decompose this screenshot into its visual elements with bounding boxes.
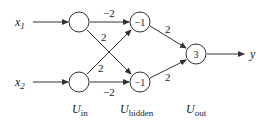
weight-h1-out: 2	[165, 23, 171, 35]
weight-h2-out: 2	[165, 71, 171, 83]
node-input-1	[69, 12, 89, 32]
layer-label-in: Uin	[72, 102, 88, 118]
input-label-x1: x1	[14, 15, 25, 31]
weight-in2-h1: 2	[98, 62, 104, 74]
node-hidden-1-value: −1	[135, 17, 146, 28]
neural-network-diagram: x1 x2 y −2 2 2 −2 2 2 −1 −1 3 Uin Uhidde…	[0, 0, 270, 123]
node-input-2	[69, 72, 89, 92]
input-label-x2: x2	[14, 75, 25, 91]
weight-in2-h2: −2	[103, 86, 115, 98]
node-output-value: 3	[194, 49, 199, 60]
weight-in1-h1: −2	[103, 7, 115, 19]
node-hidden-2-value: −1	[135, 77, 146, 88]
layer-label-out: Uout	[186, 102, 207, 118]
output-label-y: y	[249, 47, 256, 61]
weight-in1-h2: 2	[101, 31, 107, 43]
layer-label-hidden: Uhidden	[120, 102, 154, 118]
